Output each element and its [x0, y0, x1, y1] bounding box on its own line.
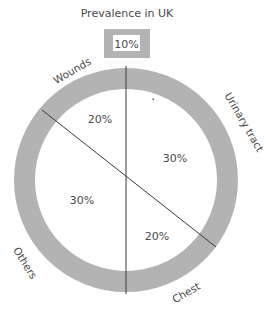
wounds-value: 20%: [88, 113, 112, 126]
others-value: 30%: [70, 194, 94, 207]
overall-prevalence-value: 10%: [114, 38, 138, 51]
others-label: Others: [11, 245, 40, 281]
divider-diagonal: [42, 110, 216, 247]
stray-mark: [153, 99, 155, 101]
prevalence-ring-chart: Prevalence in UK 10% 20% 30% 30% 20% Wou…: [0, 0, 266, 310]
chart-title: Prevalence in UK: [81, 7, 174, 20]
chest-label: Chest: [170, 280, 202, 305]
overall-prevalence-badge: 10%: [104, 29, 150, 58]
chest-value: 20%: [145, 230, 169, 243]
urinary-value: 30%: [163, 152, 187, 165]
